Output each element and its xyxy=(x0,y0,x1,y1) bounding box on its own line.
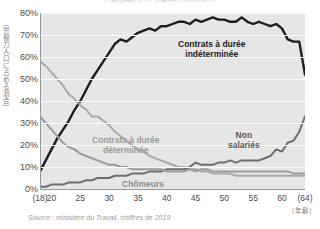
gridline xyxy=(40,145,305,146)
source-note: Source : ministère du Travail, chiffres … xyxy=(28,214,170,221)
annotation-cdd-line1: Contrats à durée xyxy=(92,135,160,145)
x-axis-caption: （年齢） xyxy=(288,205,316,215)
annotation-cdi-line2: indéterminée xyxy=(185,49,238,59)
series-line xyxy=(40,17,305,171)
annotation-non-salaries: Non salariés xyxy=(228,131,260,150)
y-tick-label: 40% xyxy=(2,96,38,106)
x-tick-label: 35 xyxy=(133,193,142,203)
gridline xyxy=(40,123,305,124)
x-tick-label: 55 xyxy=(248,193,257,203)
y-tick-label: 60% xyxy=(2,52,38,62)
annotation-cdi-line1: Contrats à durée xyxy=(178,39,246,49)
y-tick-label: 80% xyxy=(2,8,38,18)
x-tick-label: (18) xyxy=(32,193,47,203)
gridline xyxy=(40,79,305,80)
x-tick-label: 45 xyxy=(191,193,200,203)
annotation-cdd: Contrats à durée déterminée xyxy=(92,136,160,155)
chart-figure: 労働市場における雇用形態別の割合 （労働力人口に占める割合） 0%10%20%3… xyxy=(0,0,320,229)
x-tick-label: (64) xyxy=(297,193,312,203)
x-axis-line xyxy=(40,189,305,190)
x-tick-label: 60 xyxy=(277,193,286,203)
y-axis-line xyxy=(40,13,41,190)
y-tick-label: 20% xyxy=(2,140,38,150)
annotation-chomeurs: Chômeurs xyxy=(122,180,164,190)
chart-title: 労働市場における雇用形態別の割合 xyxy=(0,0,320,2)
gridline xyxy=(40,35,305,36)
y-tick-label: 30% xyxy=(2,118,38,128)
annotation-non-salaries-line1: Non xyxy=(236,130,253,140)
annotation-cdd-line2: déterminée xyxy=(103,145,148,155)
x-tick-label: 25 xyxy=(76,193,85,203)
y-tick-label: 10% xyxy=(2,162,38,172)
y-tick-label: 70% xyxy=(2,30,38,40)
x-tick-label: 20 xyxy=(47,193,56,203)
gridline xyxy=(40,167,305,168)
annotation-non-salaries-line2: salariés xyxy=(228,140,260,150)
plot-area xyxy=(40,13,305,189)
annotation-cdi: Contrats à durée indéterminée xyxy=(178,40,246,59)
gridline xyxy=(40,13,305,14)
y-tick-label: 50% xyxy=(2,74,38,84)
gridline xyxy=(40,57,305,58)
x-tick-label: 50 xyxy=(220,193,229,203)
x-tick-label: 30 xyxy=(104,193,113,203)
x-tick-label: 40 xyxy=(162,193,171,203)
gridline xyxy=(40,101,305,102)
